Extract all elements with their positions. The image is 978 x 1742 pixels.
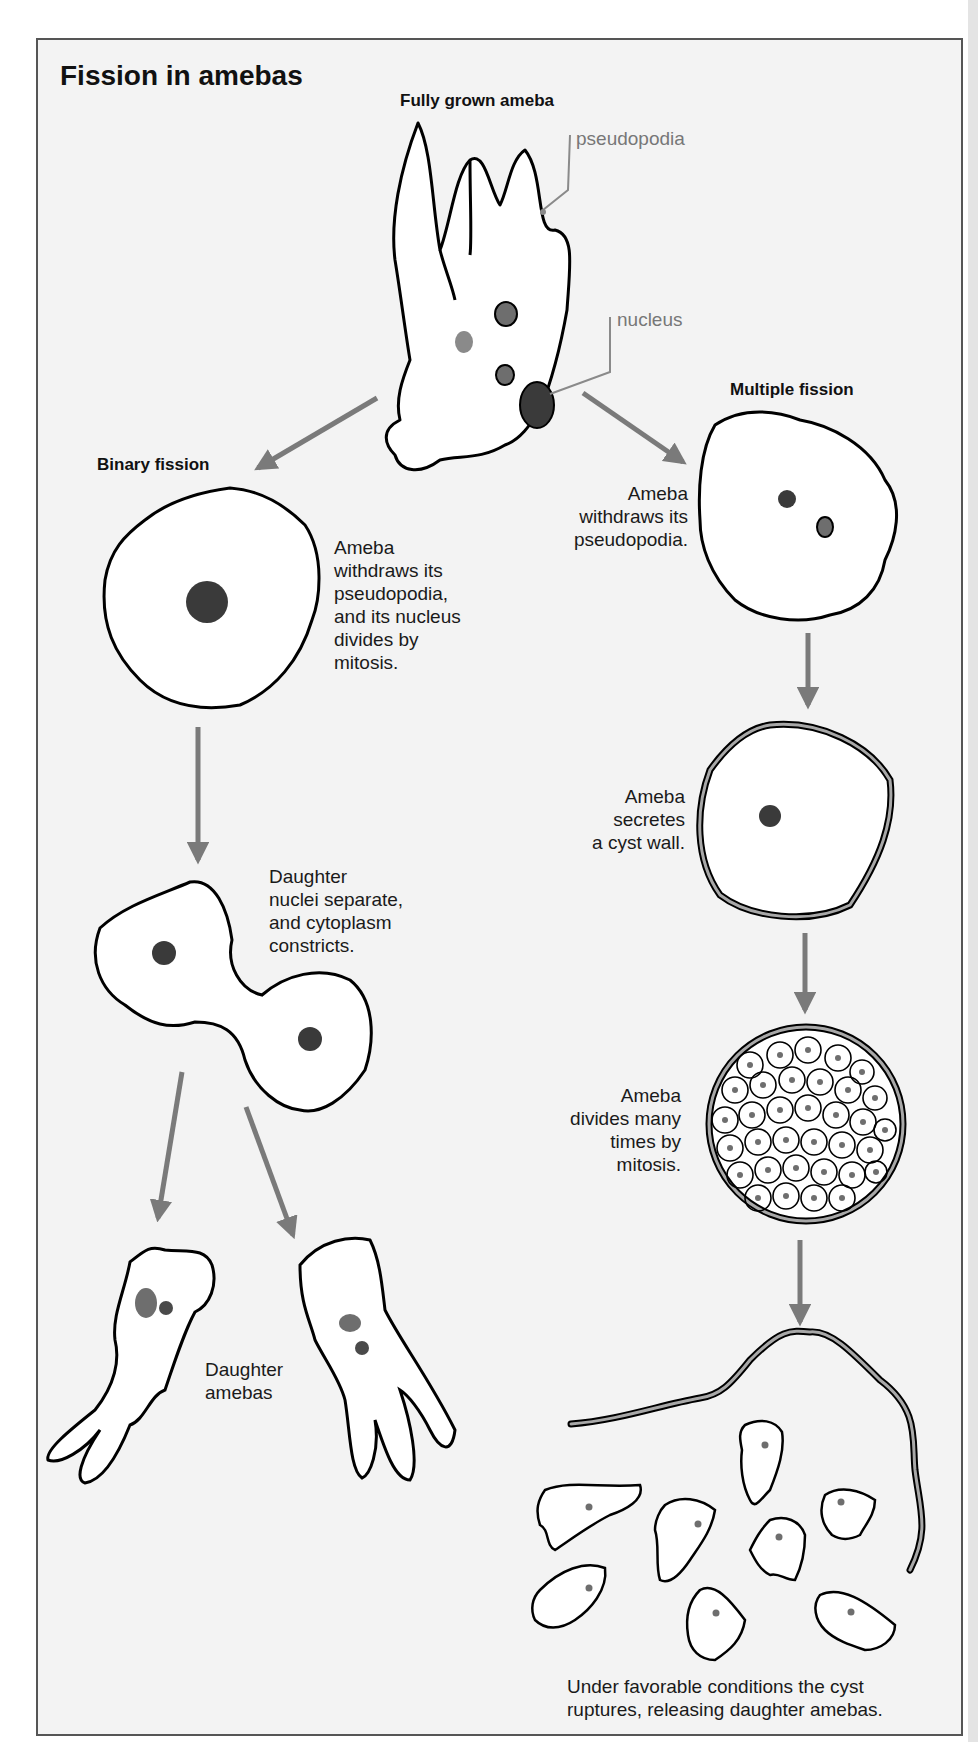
text-line: pseudopodia. — [540, 528, 688, 551]
binary-fission-heading: Binary fission — [97, 455, 209, 475]
text-line: Daughter — [269, 865, 403, 888]
pseudopodia-leader-line — [543, 135, 570, 210]
text-line: withdraws its — [334, 559, 461, 582]
text-line: Ameba — [560, 785, 685, 808]
text-line: constricts. — [269, 934, 403, 957]
text-line: nuclei separate, — [269, 888, 403, 911]
multiple-round-ameba-icon — [699, 412, 896, 620]
cyst-nucleus-icon — [759, 805, 781, 827]
multiple-step-4-text: Under favorable conditions the cyst rupt… — [567, 1675, 883, 1721]
text-line: Under favorable conditions the cyst — [567, 1675, 883, 1698]
daughter-right-nucleus-icon — [339, 1314, 361, 1332]
food-vacuole-icon — [455, 331, 473, 353]
binary-arrow-3-icon — [246, 1107, 293, 1235]
multiple-step-1-text: Ameba withdraws its pseudopodia. — [540, 482, 688, 551]
daughter-nucleus-1-icon — [152, 941, 176, 965]
text-line: Daughter — [205, 1358, 283, 1381]
daughter-left-nucleus-icon — [135, 1288, 157, 1318]
text-line: mitosis. — [540, 1153, 681, 1176]
divided-cyst-icon — [709, 1027, 903, 1221]
text-line: divides many — [540, 1107, 681, 1130]
multiple-fission-heading: Multiple fission — [730, 380, 854, 400]
released-amebas-icon — [532, 1421, 895, 1660]
multiple-step-2-text: Ameba secretes a cyst wall. — [560, 785, 685, 854]
daughter-left-vacuole-icon — [159, 1301, 173, 1315]
binary-arrow-2-icon — [158, 1072, 182, 1218]
binary-step-1-text: Ameba withdraws its pseudopodia, and its… — [334, 536, 461, 674]
multiple-nucleus-icon — [778, 490, 796, 508]
text-line: pseudopodia, — [334, 582, 461, 605]
figure-title: Fission in amebas — [60, 60, 303, 92]
pseudopodia-label: pseudopodia — [576, 128, 685, 150]
text-line: and cytoplasm — [269, 911, 403, 934]
fully-grown-heading: Fully grown ameba — [400, 91, 554, 111]
binary-nucleus-icon — [186, 581, 228, 623]
multiple-step-3-text: Ameba divides many times by mitosis. — [540, 1084, 681, 1176]
daughter-right-vacuole-icon — [355, 1341, 369, 1355]
nucleus-icon — [520, 382, 554, 428]
text-line: ruptures, releasing daughter amebas. — [567, 1698, 883, 1721]
daughter-ameba-left-icon — [48, 1248, 214, 1483]
text-line: withdraws its — [540, 505, 688, 528]
multiple-vacuole-icon — [817, 517, 833, 537]
text-line: and its nucleus — [334, 605, 461, 628]
text-line: Ameba — [540, 1084, 681, 1107]
text-line: Ameba — [540, 482, 688, 505]
leader-dot-icon — [540, 209, 546, 215]
diagram-artwork — [0, 0, 978, 1742]
text-line: amebas — [205, 1381, 283, 1404]
vacuole-icon — [495, 302, 517, 326]
text-line: times by — [540, 1130, 681, 1153]
binary-step-2-text: Daughter nuclei separate, and cytoplasm … — [269, 865, 403, 957]
daughter-amebas-text: Daughter amebas — [205, 1358, 283, 1404]
text-line: mitosis. — [334, 651, 461, 674]
text-line: secretes — [560, 808, 685, 831]
text-line: Ameba — [334, 536, 461, 559]
text-line: a cyst wall. — [560, 831, 685, 854]
nucleus-label: nucleus — [617, 309, 683, 331]
daughter-ameba-right-icon — [300, 1238, 455, 1480]
arrow-to-binary-icon — [258, 398, 377, 468]
daughter-nucleus-2-icon — [298, 1027, 322, 1051]
arrow-to-multiple-icon — [583, 393, 683, 462]
released-nuclei-icon — [586, 1442, 855, 1617]
text-line: divides by — [334, 628, 461, 651]
vacuole-small-icon — [496, 365, 514, 385]
